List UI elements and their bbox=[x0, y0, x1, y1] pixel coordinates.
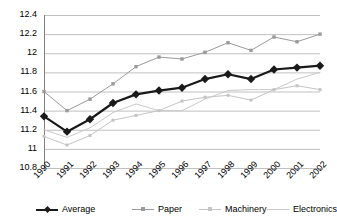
legend-item-paper[interactable]: Paper bbox=[132, 204, 182, 214]
data-point-paper bbox=[295, 40, 298, 43]
legend-item-machinery[interactable]: Machinery bbox=[199, 204, 267, 214]
data-point-average bbox=[201, 75, 209, 83]
data-point-average bbox=[270, 65, 278, 73]
legend-swatch-average bbox=[36, 205, 58, 214]
data-point-average bbox=[224, 70, 232, 78]
legend-label: Electronics bbox=[293, 204, 337, 214]
data-point-average bbox=[132, 90, 140, 98]
series-line-paper bbox=[44, 34, 320, 111]
series-line-average bbox=[44, 66, 320, 132]
legend-label: Average bbox=[62, 204, 95, 214]
data-point-machinery bbox=[158, 109, 161, 112]
series-line-machinery bbox=[44, 86, 320, 145]
data-point-paper bbox=[249, 49, 252, 52]
data-point-paper bbox=[272, 35, 275, 38]
legend-label: Paper bbox=[158, 204, 182, 214]
data-point-average bbox=[293, 63, 301, 71]
data-point-paper bbox=[134, 65, 137, 68]
data-point-average bbox=[316, 61, 324, 69]
data-point-average bbox=[247, 75, 255, 83]
data-point-machinery bbox=[319, 88, 322, 91]
data-point-machinery bbox=[204, 96, 207, 99]
data-point-machinery bbox=[66, 144, 69, 147]
data-point-average bbox=[155, 86, 163, 94]
data-point-paper bbox=[42, 90, 45, 93]
chart-legend: AveragePaperMachineryElectronics bbox=[0, 201, 334, 221]
x-axis-tick-labels: 1990199119921993199419951996199719981999… bbox=[0, 168, 334, 202]
data-point-paper bbox=[226, 41, 229, 44]
data-point-machinery bbox=[181, 100, 184, 103]
legend-item-electronics[interactable]: Electronics bbox=[267, 204, 337, 214]
data-point-machinery bbox=[135, 114, 138, 117]
legend-item-average[interactable]: Average bbox=[36, 204, 95, 214]
legend-swatch-electronics bbox=[267, 205, 289, 214]
data-point-machinery bbox=[89, 134, 92, 137]
data-point-paper bbox=[65, 109, 68, 112]
legend-swatch-paper bbox=[132, 205, 154, 214]
data-point-machinery bbox=[273, 88, 276, 91]
data-point-paper bbox=[157, 55, 160, 58]
data-point-machinery bbox=[112, 119, 115, 122]
data-point-paper bbox=[203, 51, 206, 54]
data-point-machinery bbox=[43, 135, 46, 138]
data-point-average bbox=[178, 83, 186, 91]
data-point-paper bbox=[180, 57, 183, 60]
legend-swatch-machinery bbox=[199, 205, 221, 214]
series-line-electronics bbox=[44, 72, 320, 137]
data-point-paper bbox=[111, 82, 114, 85]
data-point-paper bbox=[318, 32, 321, 35]
data-point-machinery bbox=[250, 99, 253, 102]
data-point-machinery bbox=[296, 84, 299, 87]
data-point-machinery bbox=[227, 94, 230, 97]
legend-label: Machinery bbox=[225, 204, 267, 214]
data-point-paper bbox=[88, 97, 91, 100]
